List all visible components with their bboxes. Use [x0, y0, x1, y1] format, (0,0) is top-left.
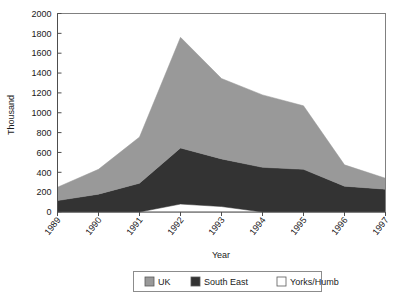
- y-axis-title: Thousand: [6, 95, 16, 135]
- y-tick-label: 800: [36, 128, 51, 138]
- legend-label-yorks-humb: Yorks/Humb: [290, 277, 339, 287]
- legend-label-uk: UK: [158, 277, 171, 287]
- y-tick-label: 1000: [31, 108, 51, 118]
- y-tick-label: 1200: [31, 88, 51, 98]
- legend-swatch-yorks-humb: [277, 277, 286, 286]
- y-tick-label: 1600: [31, 48, 51, 58]
- legend: UKSouth EastYorks/Humb: [134, 272, 339, 292]
- legend-label-south-east: South East: [204, 277, 249, 287]
- y-tick-label: 1400: [31, 68, 51, 78]
- y-tick-label: 200: [36, 187, 51, 197]
- y-tick-label: 400: [36, 168, 51, 178]
- legend-swatch-south-east: [191, 277, 200, 286]
- y-tick-label: 2000: [31, 9, 51, 19]
- y-tick-label: 0: [46, 207, 51, 217]
- area-chart: 0200400600800100012001400160018002000 19…: [0, 0, 400, 300]
- y-tick-label: 1800: [31, 29, 51, 39]
- chart-svg: 0200400600800100012001400160018002000 19…: [0, 0, 400, 300]
- legend-swatch-uk: [145, 277, 154, 286]
- y-tick-label: 600: [36, 148, 51, 158]
- x-axis-title: Year: [212, 250, 230, 260]
